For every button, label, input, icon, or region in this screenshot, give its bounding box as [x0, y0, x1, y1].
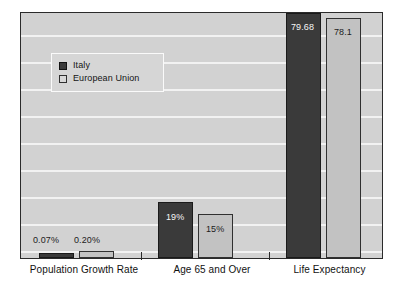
bar-population-growth-rate-european-union[interactable] — [79, 251, 114, 258]
chart-legend: Italy European Union — [51, 53, 164, 92]
bar-chart: 0.07% 0.20% 19% 15% 79.68 78.1 Italy Eur… — [0, 0, 411, 286]
bars-layer: 0.07% 0.20% 19% 15% 79.68 78.1 — [21, 13, 382, 258]
plot-area: 0.07% 0.20% 19% 15% 79.68 78.1 Italy Eur… — [20, 12, 383, 259]
bar-life-expectancy-european-union[interactable] — [326, 18, 361, 258]
legend-item-italy[interactable]: Italy — [59, 59, 156, 72]
x-axis-category-labels: Population Growth Rate Age 65 and Over L… — [20, 263, 383, 279]
bar-value-age-65-and-over-italy: 19% — [166, 212, 184, 223]
bar-value-age-65-and-over-european-union: 15% — [206, 224, 224, 235]
legend-label-italy: Italy — [73, 60, 90, 71]
bar-value-population-growth-rate-italy: 0.07% — [33, 235, 59, 246]
x-axis-label-population-growth-rate: Population Growth Rate — [20, 263, 148, 277]
bar-life-expectancy-italy[interactable] — [286, 13, 321, 258]
dark-square-swatch-icon — [59, 62, 67, 70]
bar-value-life-expectancy-italy: 79.68 — [291, 22, 314, 33]
legend-item-european-union[interactable]: European Union — [59, 72, 156, 85]
bar-age-65-and-over-european-union[interactable] — [198, 214, 233, 258]
bar-value-life-expectancy-european-union: 78.1 — [334, 27, 352, 38]
x-axis-label-age-65-and-over: Age 65 and Over — [148, 263, 276, 277]
legend-label-european-union: European Union — [73, 73, 139, 84]
x-axis-label-life-expectancy: Life Expectancy — [276, 263, 383, 277]
bar-age-65-and-over-italy[interactable] — [158, 202, 193, 258]
bar-population-growth-rate-italy[interactable] — [39, 253, 74, 258]
light-square-swatch-icon — [59, 75, 67, 83]
bar-value-population-growth-rate-european-union: 0.20% — [74, 235, 100, 246]
